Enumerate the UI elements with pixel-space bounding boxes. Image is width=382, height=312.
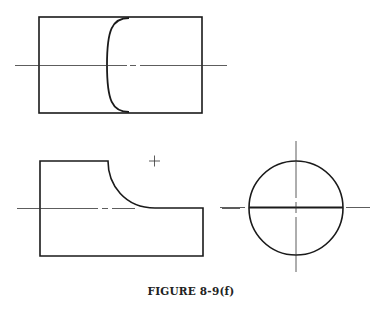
side-view bbox=[220, 141, 370, 272]
top-view bbox=[15, 17, 227, 113]
arc-center-mark bbox=[149, 156, 160, 167]
top-view-outline bbox=[39, 17, 202, 113]
figure-canvas: FIGURE 8-9(f) bbox=[0, 0, 382, 312]
technical-drawing bbox=[0, 0, 382, 312]
figure-caption: FIGURE 8-9(f) bbox=[0, 285, 382, 297]
front-view bbox=[17, 156, 240, 257]
top-view-intersection-curve bbox=[107, 18, 129, 112]
